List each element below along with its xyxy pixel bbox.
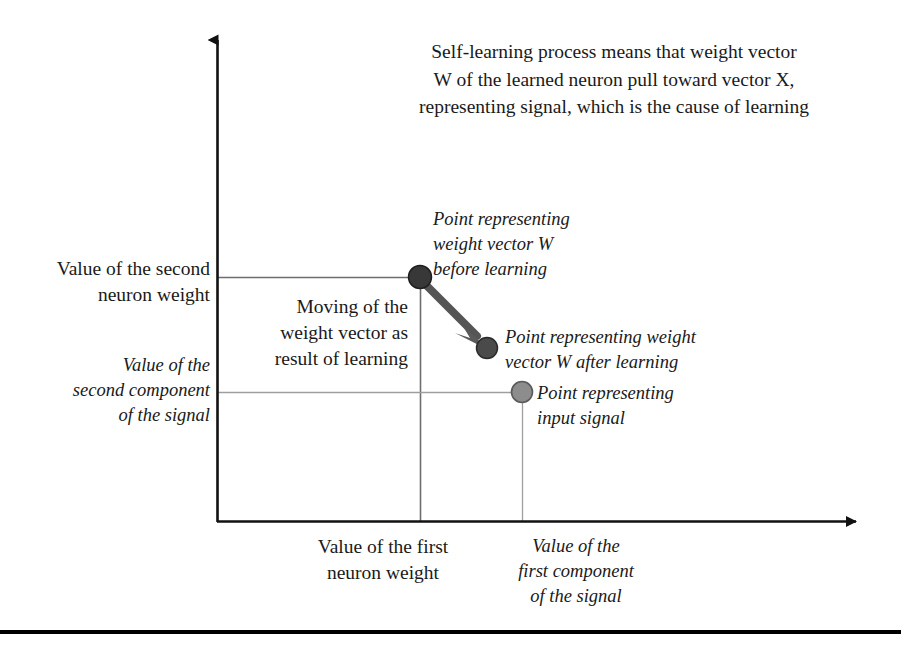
x-axis-label-signal-component: Value of the first component of the sign… — [481, 534, 671, 608]
annotation-point-after-learning: Point representing weight vector W after… — [505, 325, 755, 375]
annotation-point-before-learning: Point representing weight vector W befor… — [433, 207, 623, 282]
figure-canvas: Self-learning process means that weight … — [0, 0, 901, 647]
point-weight-after-learning — [477, 338, 498, 359]
point-input-signal — [512, 382, 533, 403]
figure-title: Self-learning process means that weight … — [334, 38, 894, 121]
point-weight-before-learning — [409, 266, 432, 289]
annotation-weight-vector-movement: Moving of the weight vector as result of… — [243, 294, 408, 372]
y-axis-label-neuron-weight: Value of the second neuron weight — [20, 256, 210, 308]
x-axis-label-neuron-weight: Value of the first neuron weight — [288, 534, 478, 586]
y-axis-label-signal-component: Value of the second component of the sig… — [10, 353, 210, 427]
bottom-rule — [0, 630, 901, 634]
annotation-point-input-signal: Point representing input signal — [537, 381, 767, 431]
